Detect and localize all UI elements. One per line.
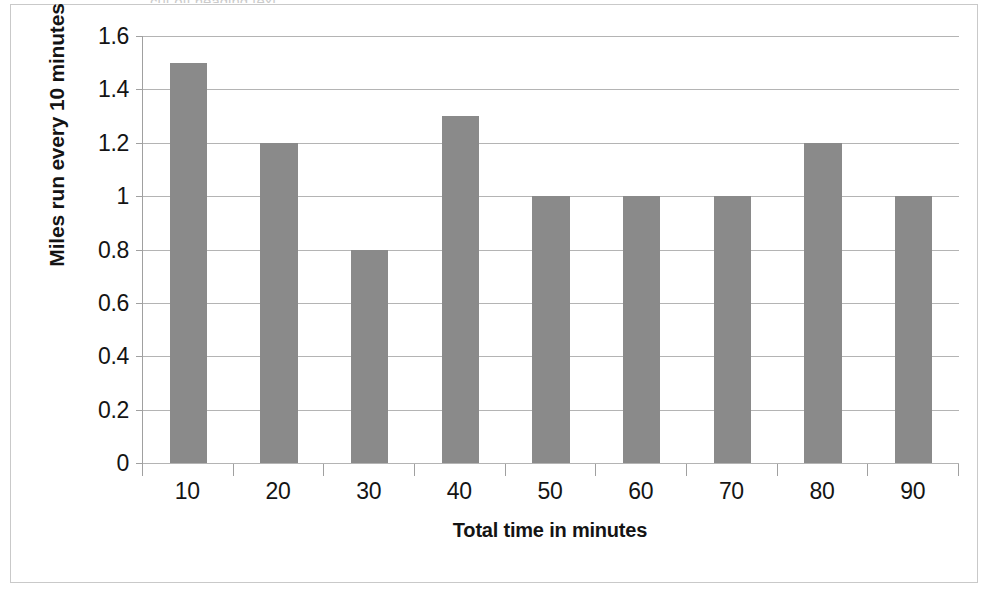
bar bbox=[895, 196, 932, 463]
y-tick-label: 0.2 bbox=[98, 396, 129, 423]
y-tick-label: 0.6 bbox=[98, 289, 129, 316]
x-tick-label: 40 bbox=[414, 478, 505, 512]
y-tick-label: 0 bbox=[117, 450, 130, 477]
bar bbox=[623, 196, 660, 463]
bar-slot bbox=[687, 36, 778, 463]
x-tick-mark bbox=[505, 464, 506, 476]
x-tick-label: 20 bbox=[233, 478, 324, 512]
y-tick-mark bbox=[136, 410, 143, 411]
x-tick-label: 70 bbox=[686, 478, 777, 512]
y-tick-mark bbox=[136, 36, 143, 37]
y-tick-mark bbox=[136, 143, 143, 144]
bar bbox=[170, 63, 207, 463]
x-tick-mark bbox=[686, 464, 687, 476]
y-tick-mark bbox=[136, 303, 143, 304]
x-axis-ticks-group bbox=[142, 464, 958, 476]
x-axis-labels-group: 102030405060708090 bbox=[142, 478, 958, 512]
x-tick-mark bbox=[867, 464, 868, 476]
bar bbox=[260, 143, 297, 463]
y-tick-label: 1 bbox=[117, 183, 130, 210]
y-axis-title: Miles run every 10 minutes bbox=[45, 0, 75, 345]
x-tick-mark bbox=[414, 464, 415, 476]
y-tick-label: 0.8 bbox=[98, 236, 129, 263]
bar bbox=[804, 143, 841, 463]
x-tick-label: 30 bbox=[323, 478, 414, 512]
x-tick-label: 10 bbox=[142, 478, 233, 512]
bar bbox=[532, 196, 569, 463]
x-tick-label: 80 bbox=[777, 478, 868, 512]
y-tick-mark bbox=[136, 356, 143, 357]
bar-slot bbox=[778, 36, 869, 463]
x-tick-label: 50 bbox=[505, 478, 596, 512]
y-tick-label: 0.4 bbox=[98, 343, 129, 370]
y-tick-mark bbox=[136, 250, 143, 251]
bars-group bbox=[143, 36, 959, 463]
x-tick-mark bbox=[777, 464, 778, 476]
x-tick-label: 90 bbox=[867, 478, 958, 512]
bar-slot bbox=[324, 36, 415, 463]
bar-slot bbox=[868, 36, 959, 463]
bar-slot bbox=[415, 36, 506, 463]
y-tick-label: 1.4 bbox=[98, 76, 129, 103]
x-axis-title: Total time in minutes bbox=[142, 519, 958, 542]
cropped-heading-sliver: cut off heading text bbox=[150, 0, 570, 3]
y-tick-label: 1.2 bbox=[98, 129, 129, 156]
x-tick-mark bbox=[595, 464, 596, 476]
x-tick-mark bbox=[233, 464, 234, 476]
bar bbox=[442, 116, 479, 463]
y-tick-mark bbox=[136, 89, 143, 90]
x-tick-label: 60 bbox=[595, 478, 686, 512]
x-tick-mark bbox=[958, 464, 959, 476]
bar-slot bbox=[506, 36, 597, 463]
y-tick-mark bbox=[136, 196, 143, 197]
y-tick-label: 1.6 bbox=[98, 23, 129, 50]
x-tick-mark bbox=[142, 464, 143, 476]
bar-chart-figure: cut off heading text Miles run every 10 … bbox=[0, 0, 987, 606]
bar-slot bbox=[234, 36, 325, 463]
bar-slot bbox=[143, 36, 234, 463]
x-tick-mark bbox=[323, 464, 324, 476]
plot-area: 00.20.40.60.811.21.41.6 bbox=[142, 36, 959, 464]
bar bbox=[351, 250, 388, 464]
bar bbox=[714, 196, 751, 463]
bar-slot bbox=[596, 36, 687, 463]
